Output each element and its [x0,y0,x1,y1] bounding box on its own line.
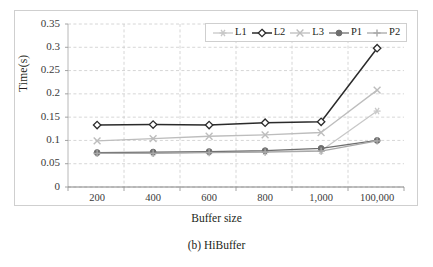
y-tick-label: 0.2 [14,86,60,98]
plus-marker [366,27,388,39]
legend-label: L3 [312,27,324,38]
diamond-marker [251,27,273,39]
series-L1 [94,108,381,156]
legend-label: L2 [274,27,286,38]
data-point-L2-200 [93,121,100,128]
legend-marker-L1 [220,29,227,35]
legend-entry-L3: L3 [287,27,326,39]
data-point-L2-600 [205,121,212,128]
y-tick-label: 0.05 [14,156,60,168]
data-point-L2-400 [149,121,156,128]
legend-marker-P2 [374,29,381,36]
legend-entry-P2: P2 [364,27,402,39]
y-tick-label: 0.1 [14,133,60,145]
figure-caption: (b) HiBuffer [0,239,433,251]
series-L2 [93,45,380,129]
chart-legend: L1L2L3P1P2 [205,23,407,42]
legend-entry-P1: P1 [326,27,364,39]
legend-entry-L1: L1 [210,27,249,39]
figure-hibuffer: Time(s) 00.050.10.150.20.250.30.35 20040… [0,0,433,267]
gridlines [68,24,404,187]
circle-marker [328,27,350,39]
asterisk-marker [212,27,234,39]
legend-label: P1 [351,27,362,38]
x-axis-title: Buffer size [0,212,433,224]
y-tick-label: 0.35 [14,17,60,29]
series-L3 [94,87,381,145]
y-tick-label: 0 [14,180,60,192]
y-tick-label: 0.15 [14,110,60,122]
y-tick-label: 0.3 [14,40,60,52]
legend-label: P2 [389,27,400,38]
legend-marker-L2 [258,29,265,36]
x-marker [289,27,311,39]
legend-label: L1 [235,27,247,38]
y-tick-label: 0.25 [14,63,60,75]
data-point-L2-800 [261,119,268,126]
x-tick-label: 100,000 [342,192,412,203]
legend-marker-P1 [336,30,342,36]
legend-entry-L2: L2 [249,27,288,39]
data-point-L3-100,000 [374,87,381,94]
